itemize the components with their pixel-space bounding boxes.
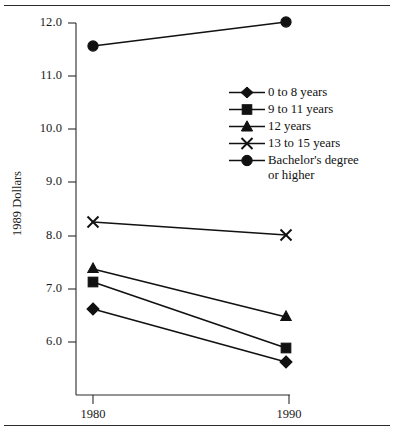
- legend-label: 0 to 8 years: [266, 84, 327, 100]
- y-tick-label-6: 6.0: [26, 334, 62, 349]
- x-tick-label-1980: 1980: [68, 407, 118, 422]
- y-tick-label-11: 11.0: [26, 68, 62, 83]
- legend-label-line1: Bachelor's degree: [266, 152, 359, 168]
- legend-item-9-to-11-years: 9 to 11 years: [228, 101, 390, 118]
- series-9-to-11-years: [88, 277, 291, 353]
- square-marker-icon: [281, 343, 291, 353]
- axes-group: [68, 23, 290, 404]
- diamond-marker-icon: [87, 303, 99, 315]
- legend-item-13-to-15-years: 13 to 15 years: [228, 135, 390, 152]
- series-line-bachelors: [93, 22, 286, 46]
- series-line-12: [93, 269, 286, 317]
- diamond-marker-icon: [280, 356, 292, 368]
- legend-item-0-to-8-years: 0 to 8 years: [228, 84, 390, 101]
- line-chart-canvas: [0, 0, 394, 437]
- chart-figure: 12.0 11.0 10.0 9.0 8.0 7.0 6.0 1980 1990…: [0, 0, 394, 437]
- triangle-marker-icon: [228, 118, 266, 135]
- legend-item-12-years: 12 years: [228, 118, 390, 135]
- series-line-0-8: [93, 309, 286, 362]
- y-tick-label-8: 8.0: [26, 228, 62, 243]
- legend-label-line2: or higher: [266, 167, 315, 183]
- x-tick-label-1990: 1990: [264, 407, 314, 422]
- chart-legend: 0 to 8 years 9 to 11 years 12 years: [228, 84, 390, 184]
- series-0-to-8-years: [87, 303, 292, 368]
- circle-marker-icon: [88, 41, 98, 51]
- series-bachelors-degree-or-higher: [88, 17, 291, 51]
- square-marker-icon: [88, 277, 98, 287]
- legend-label: 9 to 11 years: [266, 101, 333, 117]
- legend-item-bachelors-continuation: or higher: [228, 167, 390, 184]
- series-13-to-15-years: [88, 217, 292, 241]
- legend-label: 13 to 15 years: [266, 135, 340, 151]
- y-tick-label-10: 10.0: [26, 121, 62, 136]
- y-tick-label-7: 7.0: [26, 281, 62, 296]
- y-tick-label-9: 9.0: [26, 174, 62, 189]
- triangle-marker-icon: [88, 263, 98, 273]
- legend-key-spacer: [228, 167, 266, 184]
- circle-marker-icon: [281, 17, 291, 27]
- series-line-13-15: [93, 222, 286, 235]
- series-line-9-11: [93, 282, 286, 348]
- diamond-marker-icon: [228, 84, 266, 101]
- x-marker-icon: [228, 135, 266, 152]
- square-marker-icon: [228, 101, 266, 118]
- legend-label: 12 years: [266, 118, 311, 134]
- y-axis-label: 1989 Dollars: [10, 154, 25, 254]
- series-12-years: [88, 263, 291, 321]
- y-tick-label-12: 12.0: [26, 15, 62, 30]
